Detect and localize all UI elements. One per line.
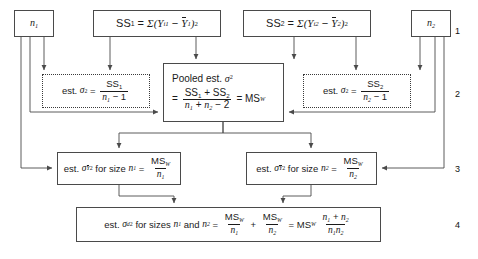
est1-fraction: SS1 n1 − 1	[100, 79, 128, 103]
sd-fraction-2: MSW n2	[261, 212, 284, 236]
ybar2-fraction: MSW n2	[342, 156, 365, 180]
ss1-formula: SS1 = Σ (Yi1 − Y1 )2	[116, 18, 198, 30]
ss2-formula: SS2 = Σ (Yi2 − Y2 )2	[266, 18, 348, 30]
row-label-3: 3	[455, 164, 460, 174]
n1-label: n1	[30, 18, 38, 29]
ybar1-fraction: MSW n1	[149, 156, 172, 180]
box-est-sigma2-group1: est. σ2 = SS1 n1 − 1	[42, 74, 150, 108]
row-label-1: 1	[455, 26, 460, 36]
row-label-2: 2	[455, 89, 460, 99]
box-n1: n1	[14, 10, 54, 37]
sd-fraction-1: MSW n1	[223, 212, 246, 236]
n2-label: n2	[427, 18, 435, 29]
box-est-se-mean-group1: est. σY2 for size n1 = MSW n1	[57, 152, 181, 185]
box-ss1: SS1 = Σ (Yi1 − Y1 )2	[93, 10, 221, 37]
ybar2-formula: est. σY2 for size n2 = MSW n2	[256, 156, 366, 180]
box-pooled-variance: Pooled est. σ2 = SS1 + SS2 n1 + n2 − 2 =…	[163, 63, 284, 122]
diagram-canvas: n1 SS1 = Σ (Yi1 − Y1 )2 SS2 = Σ (Yi2 − Y…	[0, 0, 478, 259]
ybar1-formula: est. σY2 for size n1 = MSW n1	[64, 156, 174, 180]
pooled-title: Pooled est. σ2	[172, 74, 233, 85]
row-label-4: 4	[455, 220, 460, 230]
sd-fraction-3: n1 + n2 n1n2	[321, 212, 351, 236]
sd-formula: est. σd2 for sizes n1 and n2 = MSW n1 + …	[104, 212, 353, 236]
box-est-se-difference: est. σd2 for sizes n1 and n2 = MSW n1 + …	[76, 207, 381, 242]
box-ss2: SS2 = Σ (Yi2 − Y2 )2	[243, 10, 371, 37]
box-n2: n2	[411, 10, 451, 37]
box-est-sigma2-group2: est. σ2 = SS2 n2 − 1	[303, 74, 411, 108]
box-est-se-mean-group2: est. σY2 for size n2 = MSW n2	[246, 152, 377, 185]
pooled-fraction: SS1 + SS2 n1 + n2 − 2	[183, 88, 232, 111]
est1-formula: est. σ2 = SS1 n1 − 1	[62, 79, 130, 103]
est2-fraction: SS2 n2 − 1	[361, 79, 389, 103]
pooled-formula: = SS1 + SS2 n1 + n2 − 2 = MSW	[172, 88, 265, 111]
est2-formula: est. σ2 = SS2 n2 − 1	[323, 79, 391, 103]
pooled-content: Pooled est. σ2 = SS1 + SS2 n1 + n2 − 2 =…	[164, 74, 283, 110]
